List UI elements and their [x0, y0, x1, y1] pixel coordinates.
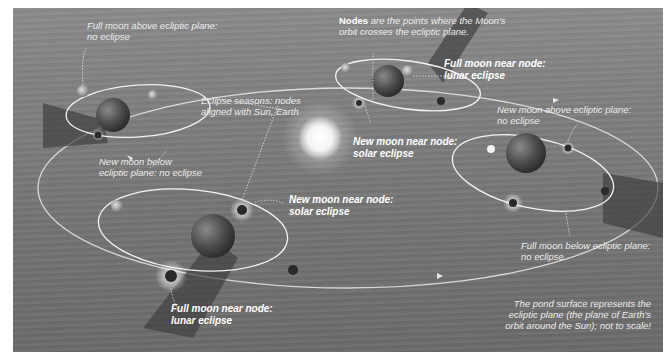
earth-icon	[506, 133, 546, 173]
eclipse-seasons-label: Eclipse seasons: nodes aligned with Sun,…	[201, 95, 301, 117]
new-moon-icon	[95, 132, 102, 139]
full-moon-above-label: Full moon above ecliptic plane: no eclip…	[87, 20, 217, 42]
full-moon-icon	[509, 199, 517, 207]
new-moon-near-node-bottom-label: New moon near node: solar eclipse	[289, 194, 393, 218]
full-moon-icon	[402, 65, 414, 77]
new-moon-near-node-top-label: New moon near node: solar eclipse	[353, 136, 457, 160]
earth-icon	[191, 214, 235, 258]
moon-orbit-upper-left	[64, 80, 211, 142]
diagram-frame: Nodes are the points where the Moon's or…	[13, 8, 663, 352]
moon-orbit-right	[446, 122, 621, 225]
new-moon-below-label: New moon below ecliptic plane: no eclips…	[99, 156, 202, 178]
earth-icon	[96, 98, 130, 132]
nodes-label: Nodes are the points where the Moon's or…	[339, 15, 506, 37]
full-moon-near-node-bottom-label: Full moon near node: lunar eclipse	[171, 303, 273, 327]
earth-icon	[372, 65, 404, 97]
new-moon-icon	[237, 205, 247, 215]
full-moon-near-node-top-label: Full moon near node: lunar eclipse	[444, 58, 546, 82]
caption: The pond surface represents the ecliptic…	[499, 298, 651, 331]
new-moon-icon	[356, 100, 362, 106]
new-moon-above-label: New moon above ecliptic plane: no eclips…	[497, 104, 631, 126]
full-moon-below-label: Full moon below ecliptic plane: no eclip…	[521, 240, 650, 262]
full-moon-icon	[165, 270, 177, 282]
new-moon-icon	[565, 145, 572, 152]
full-moon-icon	[77, 85, 89, 97]
nodes-label-bold: Nodes	[339, 15, 368, 26]
